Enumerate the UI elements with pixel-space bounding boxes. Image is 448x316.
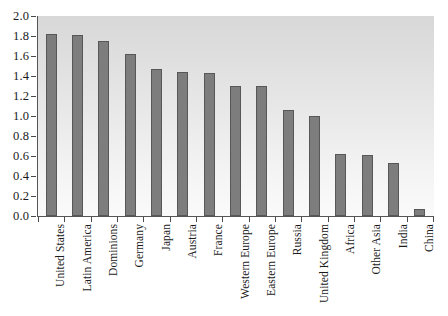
y-axis-tick-mark [31,96,36,97]
x-axis-tick-label: India [398,224,410,248]
y-axis-tick-label: 0.6 [13,150,29,163]
x-axis-tick-mark [170,217,171,222]
x-axis-tick-label: Russia [292,224,304,255]
bar [151,69,162,216]
x-axis-tick-mark [38,217,39,222]
x-axis-tick-label-text: Eastern Europe [266,224,278,296]
x-axis-tick-label-text: France [213,224,225,256]
y-axis-tick-label: 0.0 [13,210,29,223]
x-axis-tick-label: France [213,224,225,256]
x-axis-tick-mark [64,217,65,222]
x-axis-tick-label-text: Latin America [82,224,94,291]
x-axis-tick-mark [328,217,329,222]
y-axis-tick-label: 0.8 [13,130,29,143]
x-axis-tick-label-text: United States [55,224,67,287]
x-axis-tick-label: Eastern Europe [266,224,278,296]
x-axis-tick-label: United States [55,224,67,287]
y-axis-tick-mark [31,136,36,137]
bar [204,73,215,216]
x-axis-tick-label-text: Japan [161,224,173,251]
y-axis-tick-mark [31,156,36,157]
x-axis-tick-mark [407,217,408,222]
x-axis-tick-mark [433,217,434,222]
bars-group [38,16,433,216]
x-axis-tick-label: China [424,224,436,252]
y-axis-tick-mark [31,216,36,217]
x-axis-tick-mark [143,217,144,222]
x-axis-tick-mark [222,217,223,222]
x-axis-tick-mark [91,217,92,222]
y-axis-tick-label: 1.8 [13,30,29,43]
x-axis-tick-mark [301,217,302,222]
x-axis-tick-label-text: Africa [345,224,357,254]
bar [335,154,346,216]
bar [283,110,294,216]
x-axis-tick-label-text: Russia [292,224,304,255]
x-axis-tick-label: Japan [161,224,173,251]
bar [125,54,136,216]
bar [256,86,267,216]
bar [414,209,425,216]
bar [46,34,57,216]
y-axis-tick-mark [31,76,36,77]
x-axis-tick-mark [249,217,250,222]
bar [230,86,241,216]
y-axis-tick-mark [31,176,36,177]
bar [72,35,83,216]
y-axis-tick-label: 0.2 [13,190,29,203]
x-axis-labels: United StatesLatin AmericaDominionsGerma… [38,224,433,316]
x-axis-tick-label-text: Germany [134,224,146,268]
bar [388,163,399,216]
y-axis-tick-mark [31,16,36,17]
x-axis-tick-mark [380,217,381,222]
x-axis-tick-label: Western Europe [240,224,252,299]
y-axis-tick-mark [31,56,36,57]
x-axis-tick-mark [354,217,355,222]
bar [309,116,320,216]
bar [177,72,188,216]
bar [98,41,109,216]
x-axis-tick-label-text: China [424,224,436,252]
x-axis-tick-label-text: United Kingdom [319,224,331,303]
x-axis-tick-label: United Kingdom [319,224,331,303]
y-axis-tick-label: 1.6 [13,50,29,63]
y-axis-tick-mark [31,116,36,117]
y-axis-tick-label: 1.0 [13,110,29,123]
x-axis-ticks [38,217,433,223]
y-axis-tick-mark [31,36,36,37]
x-axis-tick-label-text: Austria [187,224,199,259]
x-axis-tick-label-text: India [398,224,410,248]
x-axis-tick-label-text: Dominions [108,224,120,276]
x-axis-tick-mark [117,217,118,222]
y-axis-tick-label: 1.2 [13,90,29,103]
x-axis-tick-label: Dominions [108,224,120,276]
x-axis-tick-label: Germany [134,224,146,268]
y-axis: 0.00.20.40.60.81.01.21.41.61.82.0 [0,0,33,316]
x-axis-tick-label: Latin America [82,224,94,291]
x-axis-tick-label: Africa [345,224,357,254]
x-axis-tick-label: Austria [187,224,199,259]
bar [362,155,373,216]
x-axis-tick-label-text: Other Asia [371,224,383,275]
y-axis-tick-label: 2.0 [13,10,29,23]
x-axis-tick-label-text: Western Europe [240,224,252,299]
x-axis-tick-label: Other Asia [371,224,383,275]
x-axis-tick-mark [196,217,197,222]
y-axis-tick-label: 0.4 [13,170,29,183]
y-axis-tick-label: 1.4 [13,70,29,83]
x-axis-tick-mark [275,217,276,222]
y-axis-tick-mark [31,196,36,197]
bar-chart-figure: 0.00.20.40.60.81.01.21.41.61.82.0 United… [0,0,448,316]
